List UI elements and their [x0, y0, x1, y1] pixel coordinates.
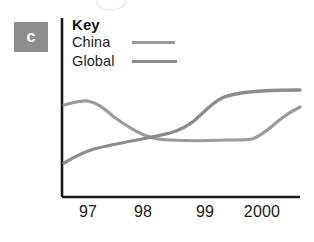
x-tick-label-99: 99	[196, 203, 214, 221]
series-line-global	[64, 90, 300, 163]
series-line-china	[64, 101, 300, 141]
x-tick-label-98: 98	[134, 203, 152, 221]
x-tick-label-97: 97	[79, 203, 97, 221]
x-tick-label-2000: 2000	[244, 203, 280, 221]
chart-figure: c Key China Global 97 98 99 2000	[0, 0, 314, 242]
